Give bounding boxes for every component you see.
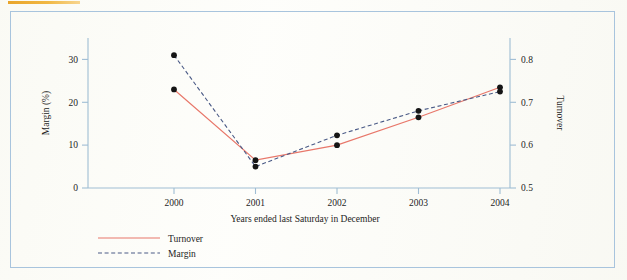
- figure-border-box: [10, 11, 615, 268]
- top-orange-rule: [8, 1, 80, 4]
